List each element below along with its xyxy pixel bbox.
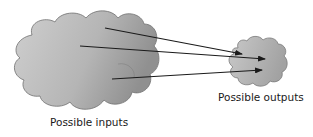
outputs-label: Possible outputs: [218, 91, 304, 103]
inputs-label: Possible inputs: [50, 116, 128, 128]
diagram-canvas: Possible inputs Possible outputs: [0, 0, 313, 137]
outputs-cloud: [229, 36, 287, 86]
diagram-graphic: [0, 0, 313, 137]
inputs-cloud: [14, 11, 159, 109]
